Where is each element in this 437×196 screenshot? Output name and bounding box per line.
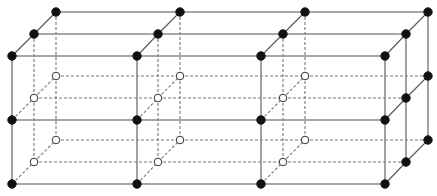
filled-node-icon (257, 180, 265, 188)
filled-node-icon (52, 8, 60, 16)
open-node-icon (279, 94, 287, 102)
open-node-icon (301, 136, 309, 144)
filled-node-icon (402, 158, 410, 166)
open-node-icon (52, 72, 60, 80)
filled-node-icon (381, 180, 389, 188)
open-node-icon (154, 94, 162, 102)
open-node-icon (30, 158, 38, 166)
filled-node-icon (381, 116, 389, 124)
filled-node-icon (8, 180, 16, 188)
hidden-edges (12, 12, 428, 184)
open-node-icon (154, 158, 162, 166)
open-node-icon (279, 158, 287, 166)
filled-node-icon (424, 136, 432, 144)
hidden-edge-depth (158, 140, 180, 162)
filled-node-icon (402, 30, 410, 38)
filled-node-icon (257, 52, 265, 60)
open-node-icon (176, 136, 184, 144)
filled-node-icon (301, 8, 309, 16)
lattice-svg (0, 0, 437, 196)
filled-node-icon (381, 52, 389, 60)
open-node-icon (30, 94, 38, 102)
hidden-edge-depth (34, 140, 56, 162)
filled-node-icon (154, 30, 162, 38)
filled-node-icon (133, 52, 141, 60)
lattice-diagram (0, 0, 437, 196)
open-node-icon (301, 72, 309, 80)
filled-node-icon (176, 8, 184, 16)
open-node-icon (176, 72, 184, 80)
filled-node-icon (402, 94, 410, 102)
filled-node-icon (257, 116, 265, 124)
hidden-edge-depth (283, 140, 305, 162)
hidden-edge-depth (34, 76, 56, 98)
filled-node-icon (133, 116, 141, 124)
filled-node-icon (424, 8, 432, 16)
filled-node-icon (8, 52, 16, 60)
filled-node-icon (30, 30, 38, 38)
filled-node-icon (133, 180, 141, 188)
hidden-edge-depth (283, 76, 305, 98)
open-node-icon (52, 136, 60, 144)
filled-node-icon (279, 30, 287, 38)
hidden-edge-depth (158, 76, 180, 98)
filled-node-icon (8, 116, 16, 124)
filled-node-icon (424, 72, 432, 80)
